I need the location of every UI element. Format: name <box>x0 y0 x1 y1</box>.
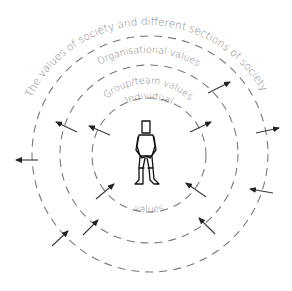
arrow-icon <box>208 82 230 93</box>
arrow-icon <box>89 126 110 135</box>
label-individual: Individual <box>123 90 175 106</box>
person-figure-icon <box>135 121 159 184</box>
arrow-icon <box>250 189 273 193</box>
arrow-icon <box>52 231 68 246</box>
ring-individual <box>92 98 206 212</box>
arrows <box>16 82 279 246</box>
label-society: The values of society and different sect… <box>22 15 270 99</box>
values-diagram: The values of society and different sect… <box>0 0 292 291</box>
ring-labels: The values of society and different sect… <box>22 15 270 215</box>
arrow-icon <box>83 220 98 235</box>
arrow-icon <box>190 122 211 132</box>
label-organisational: Organisational values <box>95 44 202 69</box>
arrow-icon <box>56 122 77 132</box>
label-values: values <box>133 202 165 215</box>
arrow-icon <box>199 218 215 234</box>
arrow-icon <box>256 128 279 133</box>
ring-organisational <box>32 36 268 272</box>
rings <box>32 36 268 272</box>
arrow-icon <box>96 184 114 199</box>
